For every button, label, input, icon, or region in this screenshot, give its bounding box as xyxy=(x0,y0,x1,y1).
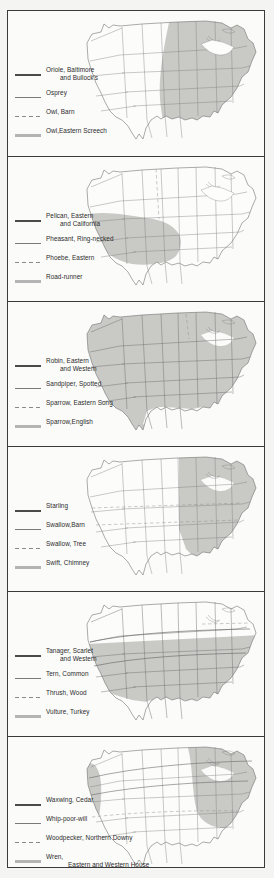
legend-item[interactable]: Road-runner xyxy=(15,272,165,291)
legend-label: Tern, Common xyxy=(46,669,89,678)
legend-item[interactable]: Wren,Eastern and Western House xyxy=(15,852,165,875)
legend-item[interactable]: Pelican, Easternand California xyxy=(15,211,165,234)
legend-line-thick-icon xyxy=(15,856,41,868)
legend-item[interactable]: Swallow,Barn xyxy=(15,520,165,539)
legend-line-dashed-icon xyxy=(15,692,41,704)
legend-item[interactable]: Sparrow,English xyxy=(15,417,165,436)
legend-item[interactable]: Tern, Common xyxy=(15,669,165,688)
legend-5: Tanager, Scarletand Western Tern, Common… xyxy=(15,646,165,726)
legend-label: Waxwing, Cedar xyxy=(46,795,93,804)
legend-line-thin-icon xyxy=(15,524,41,536)
map-panel-4: Starling Swallow,Barn Swallow, Tree Swif… xyxy=(8,446,264,591)
legend-2: Pelican, Easternand California Pheasant,… xyxy=(15,211,165,291)
legend-line-solid-icon xyxy=(15,505,41,517)
legend-item[interactable]: Vulture, Turkey xyxy=(15,707,165,726)
legend-item[interactable]: Pheasant, Ring-necked xyxy=(15,234,165,253)
legend-item[interactable]: Sparrow, Eastern Song xyxy=(15,398,165,417)
legend-label: Owl, Barn xyxy=(46,107,75,116)
legend-line-solid-icon xyxy=(15,360,41,372)
map-panel-1: Oriole, Baltimoreand Bullock's Osprey Ow… xyxy=(8,11,264,156)
panel-stack: Oriole, Baltimoreand Bullock's Osprey Ow… xyxy=(8,11,264,867)
legend-label: Wren,Eastern and Western House xyxy=(46,852,149,869)
legend-1: Oriole, Baltimoreand Bullock's Osprey Ow… xyxy=(15,65,165,145)
legend-label: Robin, Easternand Western xyxy=(46,356,97,373)
legend-line-thin-icon xyxy=(15,383,41,395)
legend-label: Vulture, Turkey xyxy=(46,707,90,716)
figure-page: Oriole, Baltimoreand Bullock's Osprey Ow… xyxy=(0,0,274,878)
legend-item[interactable]: Sandpiper, Spotted xyxy=(15,379,165,398)
legend-label: Thrush, Wood xyxy=(46,688,87,697)
legend-line-solid-icon xyxy=(15,69,41,81)
legend-line-thick-icon xyxy=(15,421,41,433)
legend-line-solid-icon xyxy=(15,650,41,662)
legend-item[interactable]: Owl, Barn xyxy=(15,107,165,126)
legend-label: Swallow,Barn xyxy=(46,520,85,529)
legend-label: Osprey xyxy=(46,88,67,97)
legend-line-dashed-icon xyxy=(15,837,41,849)
legend-label: Woodpecker, Northern Downy xyxy=(46,833,132,842)
legend-line-thin-icon xyxy=(15,673,41,685)
legend-6: Waxwing, Cedar Whip-poor-will Woodpecker… xyxy=(15,795,165,875)
legend-line-thin-icon xyxy=(15,92,41,104)
legend-line-dashed-icon xyxy=(15,402,41,414)
legend-label: Swallow, Tree xyxy=(46,539,86,548)
map-panel-6: Waxwing, Cedar Whip-poor-will Woodpecker… xyxy=(8,736,264,878)
legend-line-thin-icon xyxy=(15,238,41,250)
legend-label: Sandpiper, Spotted xyxy=(46,379,101,388)
legend-item[interactable]: Waxwing, Cedar xyxy=(15,795,165,814)
legend-item[interactable]: Oriole, Baltimoreand Bullock's xyxy=(15,65,165,88)
legend-item[interactable]: Osprey xyxy=(15,88,165,107)
legend-label: Sparrow,English xyxy=(46,417,93,426)
legend-label: Whip-poor-will xyxy=(46,814,87,823)
legend-label: Pheasant, Ring-necked xyxy=(46,234,113,243)
map-panel-5: Tanager, Scarletand Western Tern, Common… xyxy=(8,591,264,736)
legend-4: Starling Swallow,Barn Swallow, Tree Swif… xyxy=(15,501,165,577)
legend-line-dashed-icon xyxy=(15,543,41,555)
figure-frame: Oriole, Baltimoreand Bullock's Osprey Ow… xyxy=(7,10,265,868)
legend-item[interactable]: Phoebe, Eastern xyxy=(15,253,165,272)
legend-label: Road-runner xyxy=(46,272,82,281)
legend-item[interactable]: Starling xyxy=(15,501,165,520)
legend-label: Starling xyxy=(46,501,68,510)
legend-item[interactable]: Thrush, Wood xyxy=(15,688,165,707)
legend-label: Pelican, Easternand California xyxy=(46,211,100,228)
legend-line-solid-icon xyxy=(15,799,41,811)
legend-line-dashed-icon xyxy=(15,257,41,269)
legend-line-thick-icon xyxy=(15,130,41,142)
legend-item[interactable]: Tanager, Scarletand Western xyxy=(15,646,165,669)
legend-item[interactable]: Swallow, Tree xyxy=(15,539,165,558)
legend-3: Robin, Easternand Western Sandpiper, Spo… xyxy=(15,356,165,436)
legend-item[interactable]: Owl,Eastern Screech xyxy=(15,126,165,145)
legend-item[interactable]: Robin, Easternand Western xyxy=(15,356,165,379)
legend-item[interactable]: Swift, Chimney xyxy=(15,558,165,577)
map-panel-3: Robin, Easternand Western Sandpiper, Spo… xyxy=(8,301,264,446)
legend-line-thick-icon xyxy=(15,276,41,288)
legend-item[interactable]: Whip-poor-will xyxy=(15,814,165,833)
legend-label: Tanager, Scarletand Western xyxy=(46,646,97,663)
legend-line-solid-icon xyxy=(15,215,41,227)
legend-line-thin-icon xyxy=(15,818,41,830)
legend-label: Owl,Eastern Screech xyxy=(46,126,107,135)
map-panel-2: Pelican, Easternand California Pheasant,… xyxy=(8,156,264,301)
legend-line-dashed-icon xyxy=(15,111,41,123)
legend-label: Oriole, Baltimoreand Bullock's xyxy=(46,65,98,82)
legend-label: Phoebe, Eastern xyxy=(46,253,94,262)
legend-label: Sparrow, Eastern Song xyxy=(46,398,113,407)
legend-label: Swift, Chimney xyxy=(46,558,89,567)
legend-item[interactable]: Woodpecker, Northern Downy xyxy=(15,833,165,852)
legend-line-thick-icon xyxy=(15,711,41,723)
legend-line-thick-icon xyxy=(15,562,41,574)
